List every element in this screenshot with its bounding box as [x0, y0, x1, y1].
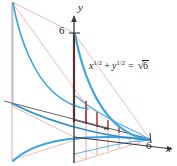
equation-exponent-x: 1/2 [94, 59, 103, 66]
curve-equation-annotation: x1/2+y1/2=√6 [89, 60, 149, 71]
equation-exponent-y: 1/2 [116, 59, 125, 66]
equation-radical: √6 [137, 60, 149, 71]
equation-plus-sign: + [102, 60, 112, 71]
axes-group [69, 16, 172, 163]
y-axis-label: y [78, 2, 83, 13]
x-axis-tick-label-6: 6 [146, 140, 152, 151]
depth-edge-origin [12, 106, 74, 137]
equation-equals-sign: = [125, 60, 137, 71]
x-axis-label: x [166, 143, 171, 154]
cross-section-base-1 [74, 154, 86, 160]
representative-slice-highlight [74, 33, 119, 133]
radical-radicand: 6 [142, 60, 149, 71]
region-diagonal-back [12, 2, 88, 108]
region-base-back [12, 136, 88, 160]
y-axis-tick-label-6: 6 [59, 25, 65, 36]
figure-container: y x 6 6 x1/2+y1/2=√6 [0, 0, 177, 166]
curves-group [13, 3, 150, 161]
